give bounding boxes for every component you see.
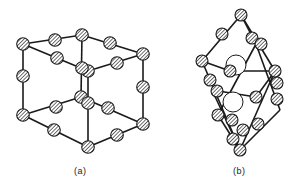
hatched-atom [255, 38, 267, 50]
open-site-circle [223, 92, 243, 112]
hatched-atom [111, 129, 124, 142]
hatched-atom [250, 91, 262, 103]
hatched-atom [17, 70, 30, 83]
panel-a-label: (a) [74, 166, 87, 176]
hatched-atom [49, 34, 62, 47]
hatched-atom [271, 77, 283, 89]
hatched-atom [137, 81, 150, 94]
hatched-atom [102, 102, 115, 115]
hatched-atom [237, 124, 249, 136]
hatched-atom [111, 57, 124, 70]
hatched-atom [50, 101, 63, 114]
hatched-atom [234, 144, 246, 156]
hatched-atom [235, 9, 247, 21]
hatched-atom [196, 55, 208, 67]
panel-b-rhombohedral-cell [196, 9, 283, 156]
hatched-atom [76, 62, 89, 75]
hatched-atom [227, 133, 239, 145]
hatched-atom [137, 48, 150, 61]
hatched-atom [224, 65, 236, 77]
hatched-atom [104, 37, 117, 50]
hatched-atom [82, 141, 95, 154]
hatched-atom [51, 52, 64, 65]
panel-b-label: (b) [233, 166, 246, 176]
panel-a-cubic-cell [17, 29, 150, 154]
hatched-atom [137, 118, 150, 131]
crystal-structure-figure [0, 0, 298, 188]
hatched-atom [48, 124, 61, 137]
hatched-atom [204, 74, 216, 86]
hatched-atom [226, 114, 238, 126]
hatched-atom [252, 118, 264, 130]
hatched-atom [17, 38, 30, 51]
hatched-atom [269, 65, 281, 77]
hatched-atom [211, 85, 223, 97]
hatched-atom [271, 93, 283, 105]
hatched-atom [17, 109, 30, 122]
hatched-atom [212, 109, 224, 121]
hatched-atom [76, 29, 89, 42]
hatched-atom [82, 97, 95, 110]
hatched-atom [216, 28, 228, 40]
